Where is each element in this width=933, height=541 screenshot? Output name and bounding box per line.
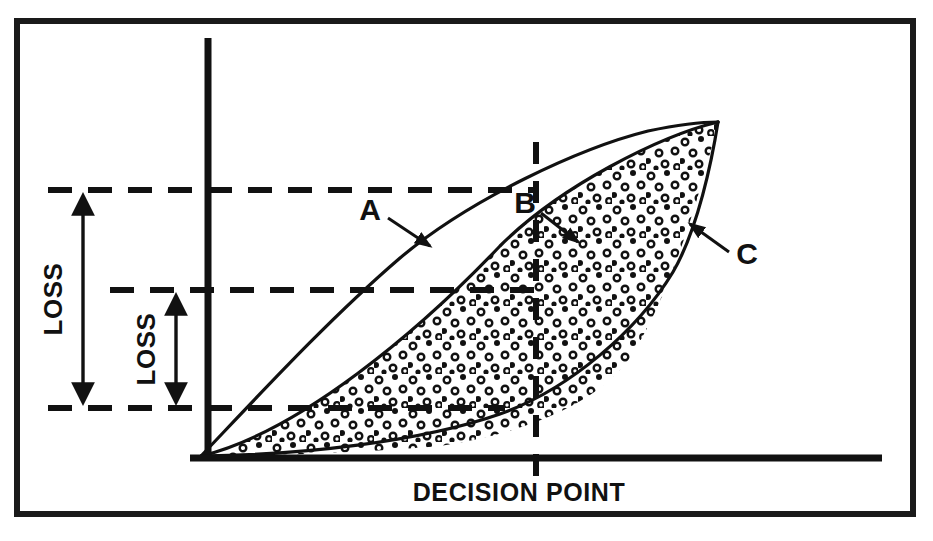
loss-vs-decision-point-diagram: LOSS LOSS A B C DECISION POINT — [0, 0, 933, 541]
curve-c-label: C — [736, 237, 758, 270]
curve-a-callout-arrow — [388, 218, 430, 246]
loss-small-label: LOSS — [131, 313, 161, 386]
loss-large-label: LOSS — [38, 263, 68, 336]
curve-b-label: B — [514, 186, 536, 219]
curve-a-label: A — [359, 193, 381, 226]
x-axis-label: DECISION POINT — [413, 478, 626, 506]
figure-container: LOSS LOSS A B C DECISION POINT — [0, 0, 933, 541]
curve-c-callout-arrow — [690, 224, 729, 252]
